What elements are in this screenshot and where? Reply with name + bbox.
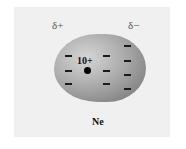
- electron-minus-icon: [124, 60, 131, 62]
- electron-minus-icon: [103, 55, 110, 57]
- delta-minus-label: δ−: [128, 19, 139, 31]
- electron-minus-icon: [103, 70, 110, 72]
- delta-plus-label: δ+: [52, 19, 63, 31]
- electron-minus-icon: [124, 45, 131, 47]
- electron-cloud: [54, 34, 146, 102]
- electron-minus-icon: [65, 70, 72, 72]
- electron-minus-icon: [65, 55, 72, 57]
- nucleus-charge-label: 10+: [77, 55, 93, 66]
- electron-minus-icon: [65, 83, 72, 85]
- element-symbol-label: Ne: [92, 116, 104, 127]
- electron-minus-icon: [124, 74, 131, 76]
- nucleus-dot-icon: [84, 67, 91, 74]
- electron-minus-icon: [103, 83, 110, 85]
- electron-minus-icon: [124, 88, 131, 90]
